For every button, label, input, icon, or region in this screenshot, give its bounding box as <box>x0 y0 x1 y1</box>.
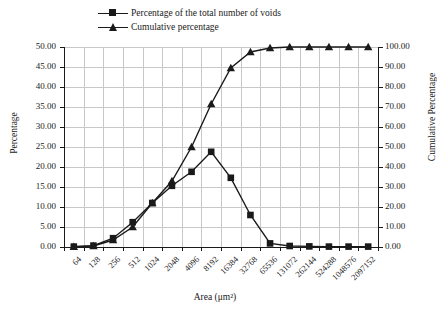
data-point-square <box>267 240 274 247</box>
data-point-square <box>326 243 333 250</box>
data-point-square <box>286 243 293 250</box>
data-point-square <box>228 175 235 182</box>
data-point-triangle <box>207 100 215 107</box>
data-point-square <box>306 243 313 250</box>
data-point-triangle <box>187 143 195 150</box>
data-point-square <box>208 149 215 156</box>
data-point-triangle <box>168 177 176 184</box>
series-line-1 <box>74 152 368 247</box>
data-point-square <box>188 169 195 176</box>
data-point-square <box>365 243 372 250</box>
data-point-square <box>345 243 352 250</box>
data-point-square <box>247 212 254 219</box>
series-line-2 <box>74 47 368 247</box>
